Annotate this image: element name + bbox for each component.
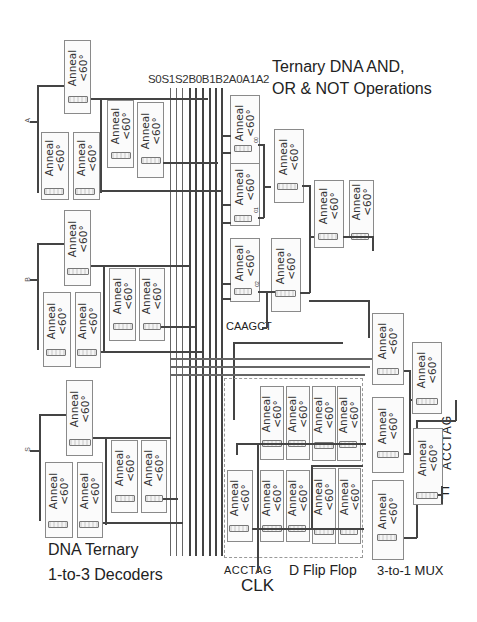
anneal-box: Anneal<60° (372, 480, 404, 560)
wire (263, 144, 265, 218)
wire (161, 326, 197, 328)
wire (37, 243, 39, 350)
strand-gate (44, 188, 64, 195)
anneal-box: Anneal<60° (75, 292, 101, 368)
strand-gate (77, 349, 97, 356)
wire (222, 222, 231, 224)
strand-gate (113, 323, 133, 330)
bus-line (170, 88, 171, 556)
wire (30, 450, 39, 452)
bus-line (182, 88, 183, 556)
anneal-box: Anneal<60° (111, 440, 138, 513)
wire (372, 236, 374, 251)
mux-label: 3-to-1 MUX (377, 563, 443, 578)
strand-gate (275, 290, 296, 297)
strand-gate (67, 268, 89, 275)
strand-gate (234, 288, 252, 295)
strand-gate (234, 145, 252, 152)
anneal-box: Anneal<60° (137, 102, 164, 178)
wire (343, 236, 373, 238)
wire (455, 400, 457, 421)
anneal-box: Anneal<60° (109, 268, 136, 341)
strand-gate (141, 157, 161, 164)
dff-label: D Flip Flop (289, 562, 357, 578)
strand-gate (46, 349, 66, 356)
wire (37, 243, 65, 245)
bus-labels: S0S1S2B0B1B2A0A1A2 (148, 73, 269, 85)
anneal-box: Anneal<60° (312, 386, 336, 461)
wire (163, 498, 178, 500)
wire (37, 85, 65, 87)
wire (233, 342, 343, 344)
wire (309, 300, 369, 302)
anneal-box: Anneal<60° (337, 386, 361, 461)
wire (252, 528, 364, 530)
wire (222, 135, 231, 137)
strand-gate (143, 323, 161, 330)
strand-gate (377, 451, 399, 458)
strand-gate (68, 96, 88, 103)
decoders-title-line-2: 1-to-3 Decoders (48, 566, 163, 584)
strand-gate (79, 521, 99, 528)
wire (368, 300, 370, 338)
wire (105, 437, 107, 525)
strand-gate (377, 368, 399, 375)
strand-gate (111, 152, 131, 159)
wire (222, 298, 231, 300)
strand-gate (229, 525, 249, 532)
wire (37, 85, 39, 193)
caagct-label: CAAGCT (226, 320, 272, 332)
anneal-box: Anneal<60° (271, 238, 301, 312)
wire (101, 351, 203, 353)
wire (39, 414, 41, 521)
strand-gate (416, 492, 438, 499)
strand-gate (377, 534, 397, 541)
wire (257, 443, 259, 573)
wire (30, 279, 37, 281)
wire (262, 327, 267, 329)
wire (222, 204, 231, 206)
wire (39, 414, 66, 416)
anneal-box: Anneal<60° (260, 386, 284, 460)
wire (222, 283, 231, 285)
title-line-2: OR & NOT Operations (272, 80, 432, 98)
clk-label: CLK (241, 576, 274, 596)
wire (103, 265, 105, 353)
wire (266, 292, 268, 328)
bus-line (221, 88, 223, 556)
wire (103, 522, 183, 524)
anneal-box: Anneal<60° (141, 440, 167, 513)
anneal-box: Anneal<60° (230, 95, 260, 167)
wire (100, 190, 222, 192)
strand-gate (277, 183, 298, 190)
port-label-02: 02 (254, 281, 260, 287)
bus-line (215, 88, 217, 556)
wire (170, 366, 370, 368)
strand-gate (318, 233, 338, 240)
wire (163, 162, 218, 164)
wire (100, 98, 102, 193)
bus-line (195, 88, 197, 556)
wire (222, 152, 231, 154)
anneal-box: Anneal<60° (286, 386, 310, 460)
strand-gate (145, 495, 163, 502)
wire (236, 443, 238, 455)
wire (170, 374, 365, 376)
anneal-box: Anneal<60° (349, 180, 374, 238)
bus-line (209, 88, 211, 556)
anneal-box: Anneal<60° (372, 397, 404, 473)
bus-line (189, 88, 191, 556)
strand-gate (234, 215, 252, 222)
port-label-01: 01 (253, 207, 259, 213)
title-line-1: Ternary DNA AND, (272, 58, 404, 76)
wire (309, 185, 311, 237)
wire (236, 443, 366, 445)
wire (311, 465, 363, 467)
bus-line (202, 88, 204, 556)
strand-gate (115, 495, 135, 502)
wire (404, 453, 410, 455)
strand-gate (416, 398, 438, 405)
wire (409, 370, 411, 455)
anneal-box: Anneal<60° (274, 129, 304, 203)
clk-sequence-label: ACCTAG (224, 564, 272, 576)
